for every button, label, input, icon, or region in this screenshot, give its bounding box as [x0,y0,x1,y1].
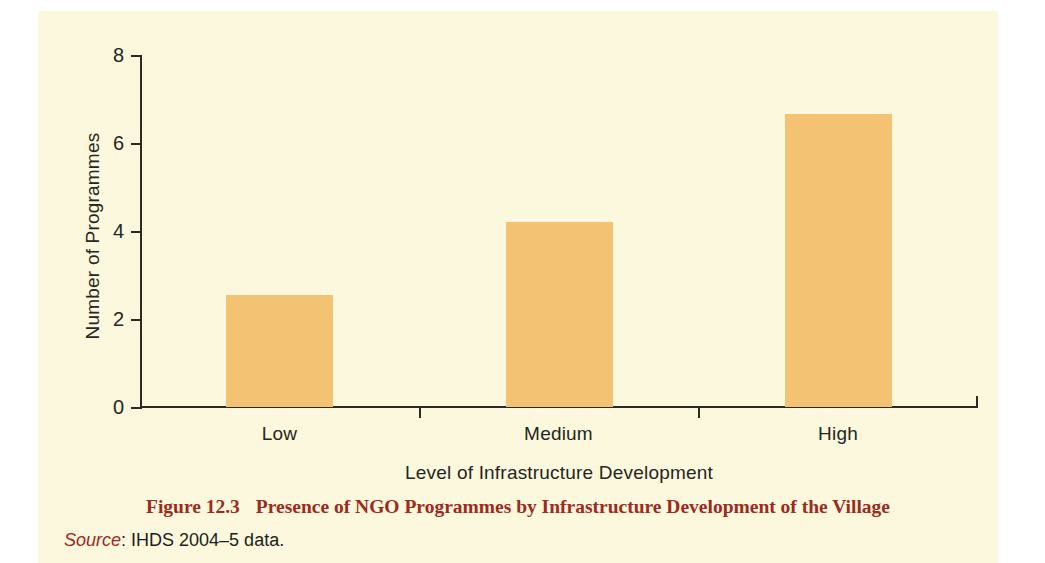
x-tick-separator-1 [419,407,421,418]
x-tick-label-low: Low [140,423,419,445]
figure-title: Presence of NGO Programmes by Infrastruc… [256,496,890,517]
bar-chart: Number of Programmes 0 2 4 6 8 Low Mediu… [38,11,998,481]
bar-low [226,295,333,407]
x-tick-label-high: High [698,423,978,445]
figure-caption: Figure 12.3Presence of NGO Programmes by… [38,496,998,518]
book-page: Number of Programmes 0 2 4 6 8 Low Mediu… [38,11,998,563]
x-axis-endcap [976,396,978,408]
y-tick-label-4: 4 [78,221,124,241]
source-note: Source: IHDS 2004–5 data. [64,530,284,551]
x-tick-label-medium: Medium [419,423,698,445]
y-axis-endcap [131,55,142,57]
x-tick-separator-2 [698,407,700,418]
y-tick-0 [131,407,142,409]
bar-medium [506,222,613,407]
y-tick-label-2: 2 [78,309,124,329]
figure-number: Figure 12.3 [146,496,240,517]
y-tick-4 [131,231,142,233]
y-tick-6 [131,143,142,145]
source-value: : IHDS 2004–5 data. [121,530,284,550]
y-tick-label-0: 0 [78,397,124,417]
bar-high [785,114,892,407]
y-tick-label-8: 8 [78,45,124,65]
source-label: Source [64,530,121,550]
x-axis-title: Level of Infrastructure Development [140,462,978,484]
y-tick-2 [131,319,142,321]
y-tick-label-6: 6 [78,133,124,153]
